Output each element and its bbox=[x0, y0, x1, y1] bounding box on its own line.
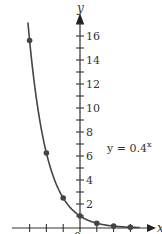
data-point bbox=[111, 223, 117, 229]
data-point bbox=[60, 195, 66, 201]
equation-exponent: x bbox=[147, 140, 152, 149]
y-tick-label: 12 bbox=[86, 78, 100, 91]
y-axis: 246810121416 y bbox=[76, 1, 100, 232]
x-axis-arrow-icon bbox=[147, 224, 156, 232]
data-point bbox=[77, 213, 83, 219]
y-tick-label: 16 bbox=[86, 30, 100, 43]
y-axis-label: y bbox=[76, 1, 84, 15]
y-tick-label: 10 bbox=[86, 102, 100, 115]
y-tick-label: 6 bbox=[86, 150, 93, 163]
y-tick-label: 14 bbox=[86, 54, 100, 67]
exponential-graph: x 0 246810121416 y y = 0.4x bbox=[0, 0, 162, 234]
data-point bbox=[27, 38, 33, 44]
data-point bbox=[94, 220, 100, 226]
equation-base: y = 0.4 bbox=[106, 142, 147, 155]
y-tick-label: 4 bbox=[86, 174, 93, 187]
equation-label: y = 0.4x bbox=[106, 140, 152, 155]
function-curve bbox=[28, 23, 140, 228]
y-tick-label: 8 bbox=[86, 126, 93, 139]
y-tick-label: 2 bbox=[86, 198, 93, 211]
data-point bbox=[128, 224, 134, 230]
data-point bbox=[44, 150, 50, 156]
x-axis-label: x bbox=[157, 221, 162, 234]
